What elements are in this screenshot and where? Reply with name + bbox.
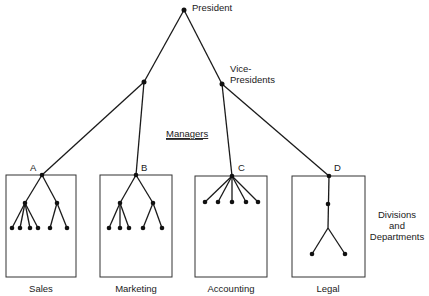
- edge-vp-right-c: [222, 84, 232, 176]
- label-president: President: [192, 2, 232, 13]
- label-letter-a: A: [30, 162, 37, 173]
- node: [107, 226, 112, 231]
- node-vp-left: [142, 80, 147, 85]
- node-d: [327, 174, 332, 179]
- node: [36, 226, 41, 231]
- node: [118, 201, 123, 206]
- node: [230, 200, 235, 205]
- node: [127, 226, 132, 231]
- node: [343, 252, 348, 257]
- node: [18, 226, 23, 231]
- label-division-sales: Sales: [29, 283, 53, 294]
- edge-president-vp-left: [144, 10, 184, 82]
- label-division-legal: Legal: [316, 283, 339, 294]
- node: [23, 201, 28, 206]
- label-managers: Managers: [166, 128, 208, 139]
- node-a: [40, 173, 45, 178]
- node: [48, 226, 53, 231]
- node: [310, 252, 315, 257]
- node: [160, 226, 165, 231]
- node: [216, 200, 221, 205]
- label-letter-d: D: [334, 162, 341, 173]
- node: [244, 200, 249, 205]
- node: [28, 226, 33, 231]
- label-divisions-1: Divisions: [378, 209, 416, 220]
- label-letter-c: C: [238, 162, 245, 173]
- node: [10, 226, 15, 231]
- node: [55, 201, 60, 206]
- node: [151, 201, 156, 206]
- label-division-marketing: Marketing: [115, 283, 157, 294]
- label-letter-b: B: [141, 162, 147, 173]
- subtree-legal: [310, 174, 348, 257]
- node: [65, 226, 70, 231]
- label-division-accounting: Accounting: [207, 283, 254, 294]
- node: [326, 202, 331, 207]
- label-divisions-3: Departments: [370, 231, 425, 242]
- node-vp-right: [220, 82, 225, 87]
- division-box-accounting: [195, 176, 267, 277]
- org-chart: President Vice- Presidents Managers A B …: [0, 0, 429, 296]
- node: [118, 226, 123, 231]
- edge-president-vp-right: [184, 10, 222, 84]
- node-b: [134, 173, 139, 178]
- subtree-accounting: [203, 174, 261, 205]
- label-divisions-2: and: [389, 220, 405, 231]
- node: [256, 200, 261, 205]
- label-vice-presidents-1: Vice-: [230, 63, 251, 74]
- edge-vp-left-a: [42, 82, 144, 175]
- node-c: [230, 174, 235, 179]
- node-president: [182, 8, 187, 13]
- subtree-marketing: [107, 173, 165, 231]
- node: [141, 226, 146, 231]
- node: [203, 200, 208, 205]
- label-vice-presidents-2: Presidents: [230, 74, 275, 85]
- subtree-sales: [10, 173, 70, 231]
